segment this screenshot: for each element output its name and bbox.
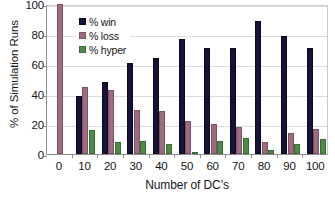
y-axis-tick-label: 80 — [16, 29, 44, 41]
y-axis-tick-label: 20 — [16, 119, 44, 131]
bar-hyper — [115, 142, 121, 154]
bar-group — [179, 6, 198, 154]
y-axis-tick-mark — [44, 66, 47, 67]
bar-win — [230, 48, 236, 155]
bar-loss — [236, 127, 242, 154]
bar-group — [204, 6, 223, 154]
bar-loss — [82, 87, 88, 155]
bar-hyper — [89, 130, 95, 154]
y-axis-tick-mark — [44, 36, 47, 37]
x-axis-tick-mark — [123, 155, 124, 158]
y-axis-tick-labels: 020406080100 — [16, 0, 44, 203]
x-axis-tick-mark — [97, 155, 98, 158]
x-axis-tick-mark — [174, 155, 175, 158]
x-axis-tick-mark — [302, 155, 303, 158]
bar-loss — [159, 111, 165, 154]
bar-group — [307, 6, 326, 154]
bar-win — [255, 21, 261, 155]
bar-hyper — [268, 150, 274, 155]
legend-label: % win — [89, 16, 116, 28]
legend-swatch-loss — [79, 32, 86, 39]
bar-win — [102, 82, 108, 154]
bar-loss — [262, 142, 268, 154]
legend-item: % loss — [79, 30, 126, 41]
x-axis-tick-mark — [225, 155, 226, 158]
legend-item: % win — [79, 16, 126, 27]
bar-win — [307, 48, 313, 155]
legend-label: % hyper — [89, 44, 126, 56]
bar-chart-figure: % of Simulation Runs 020406080100 010203… — [0, 0, 335, 203]
bar-group — [281, 6, 300, 154]
bar-hyper — [140, 141, 146, 155]
bar-group — [153, 6, 172, 154]
y-axis-tick-label: 60 — [16, 59, 44, 71]
x-axis-tick-mark — [251, 155, 252, 158]
bar-win — [179, 39, 185, 155]
bar-loss — [288, 133, 294, 154]
x-axis-tick-mark — [277, 155, 278, 158]
bar-hyper — [166, 144, 172, 154]
x-axis-tick-mark — [200, 155, 201, 158]
legend-swatch-win — [79, 18, 86, 25]
bar-hyper — [217, 141, 223, 154]
legend-item: % hyper — [79, 44, 126, 55]
bar-win — [281, 36, 287, 155]
bar-loss — [57, 4, 63, 154]
bar-loss — [134, 110, 140, 154]
bar-hyper — [192, 152, 198, 154]
bar-hyper — [320, 139, 326, 154]
bar-hyper — [243, 138, 249, 154]
y-axis-tick-mark — [44, 6, 47, 7]
legend-swatch-hyper — [79, 46, 86, 53]
y-axis-tick-label: 100 — [16, 0, 44, 11]
legend: % win% loss% hyper — [76, 14, 130, 58]
bar-loss — [211, 124, 217, 154]
bar-win — [204, 48, 210, 155]
bar-loss — [185, 121, 191, 154]
bar-group — [50, 6, 69, 154]
y-axis-tick-mark — [44, 156, 47, 157]
bar-hyper — [294, 144, 300, 155]
bar-win — [127, 63, 133, 155]
y-axis-tick-label: 40 — [16, 89, 44, 101]
bar-loss — [313, 129, 319, 155]
x-axis-tick-mark — [72, 155, 73, 158]
legend-label: % loss — [89, 30, 119, 42]
y-axis-tick-mark — [44, 96, 47, 97]
bar-win — [76, 96, 82, 155]
x-axis-tick-label: 100 — [300, 160, 330, 172]
bar-loss — [108, 90, 114, 155]
x-axis-title: Number of DC's — [46, 178, 328, 192]
bar-group — [255, 6, 274, 154]
bar-group — [230, 6, 249, 154]
y-axis-tick-label: 0 — [16, 149, 44, 161]
x-axis-tick-mark — [149, 155, 150, 158]
bar-win — [153, 58, 159, 154]
y-axis-tick-mark — [44, 126, 47, 127]
